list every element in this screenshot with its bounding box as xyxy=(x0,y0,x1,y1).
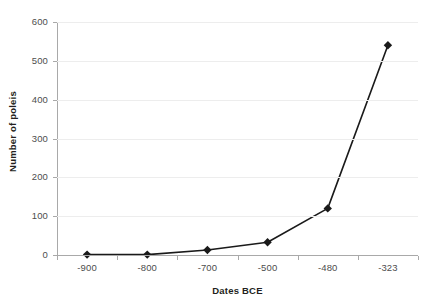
x-tick-label: -900 xyxy=(57,262,117,273)
x-tick-label: -323 xyxy=(358,262,418,273)
y-tick-label: 200 xyxy=(4,171,48,182)
gridline xyxy=(57,22,418,23)
y-tick-label: 400 xyxy=(4,94,48,105)
y-tick-mark xyxy=(53,177,57,178)
x-tick-mark xyxy=(298,256,299,260)
x-axis-title: Dates BCE xyxy=(57,285,418,296)
gridline xyxy=(57,61,418,62)
x-tick-mark xyxy=(177,256,178,260)
gridline xyxy=(57,100,418,101)
x-tick-mark xyxy=(57,256,58,260)
y-tick-label: 300 xyxy=(4,133,48,144)
y-axis-title: Number of poleis xyxy=(0,0,24,262)
data-point-marker xyxy=(203,246,211,254)
y-tick-label: 600 xyxy=(4,16,48,27)
x-tick-mark xyxy=(418,256,419,260)
series-polyline xyxy=(87,45,388,254)
x-tick-mark xyxy=(238,256,239,260)
data-point-marker xyxy=(384,41,392,49)
gridline xyxy=(57,177,418,178)
line-chart: Number of poleis Dates BCE 6005004003002… xyxy=(0,0,427,306)
y-tick-label: 500 xyxy=(4,55,48,66)
data-point-marker xyxy=(263,238,271,246)
x-tick-mark xyxy=(358,256,359,260)
y-tick-label: 0 xyxy=(4,249,48,260)
plot-area xyxy=(57,22,418,255)
x-tick-label: -700 xyxy=(177,262,237,273)
y-tick-mark xyxy=(53,22,57,23)
y-tick-mark xyxy=(53,139,57,140)
y-tick-mark xyxy=(53,216,57,217)
x-tick-mark xyxy=(117,256,118,260)
gridline xyxy=(57,139,418,140)
x-tick-label: -800 xyxy=(117,262,177,273)
y-tick-mark xyxy=(53,100,57,101)
y-tick-mark xyxy=(53,61,57,62)
x-tick-label: -480 xyxy=(298,262,358,273)
x-tick-label: -500 xyxy=(238,262,298,273)
gridline xyxy=(57,216,418,217)
data-point-marker xyxy=(324,204,332,212)
y-tick-label: 100 xyxy=(4,210,48,221)
